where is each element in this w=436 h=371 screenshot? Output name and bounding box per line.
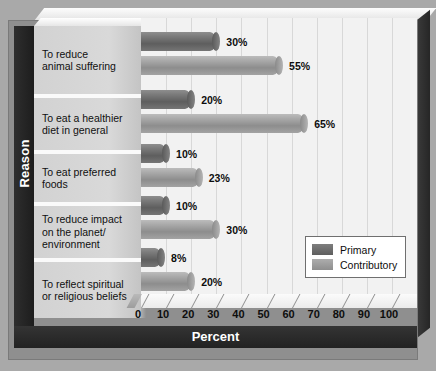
category-row: To eat a healthierdiet in general [34,98,141,150]
legend-label: Primary [340,244,376,256]
x-axis-tick [267,294,275,308]
x-axis-tick-label: 30 [207,308,219,320]
category-panel-bevel [34,18,148,26]
bar-end-cap [212,220,220,239]
legend-item[interactable]: Contributory [312,257,397,272]
category-row: To reduceanimal suffering [34,26,141,94]
x-axis-tick [342,294,350,308]
bar-end-cap [195,168,203,187]
x-axis-tick [292,294,300,308]
bar-value-label: 65% [314,118,335,130]
bar-value-label: 30% [226,36,247,48]
bar-primary [141,144,166,163]
chart-legend: PrimaryContributory [305,236,406,278]
legend-item[interactable]: Primary [312,242,397,257]
x-axis-band: Percent [14,326,417,348]
bar-contributory [141,114,304,133]
category-label: To reduce impacton the planet/environmen… [34,213,126,251]
bar-value-label: 20% [201,276,222,288]
bar-end-cap [187,272,195,291]
category-label: To eat preferredfoods [34,166,120,191]
category-label: To reduceanimal suffering [34,48,120,73]
x-axis-tick-label: 80 [333,308,345,320]
x-axis-base [141,294,417,308]
x-axis-tick-label: 100 [380,308,398,320]
x-axis-tick-label: 0 [135,308,141,320]
plot-area: 30%20%10%10%8%55%65%23%30%20%PrimaryCont… [141,18,417,294]
x-axis-tick-labels: 0102030405060708090100 [0,308,436,324]
bar-value-label: 23% [209,172,230,184]
x-axis-tick-label: 60 [282,308,294,320]
bar-contributory [141,168,199,187]
x-axis-tick [367,294,375,308]
x-axis-tick-label: 20 [182,308,194,320]
bar-value-label: 30% [226,224,247,236]
bar-value-label: 20% [201,94,222,106]
x-axis-title: Percent [14,326,417,348]
chart-figure: Reason To reduceanimal sufferingTo eat a… [0,0,436,371]
bar-end-cap [275,56,283,75]
x-axis-tick [141,294,149,308]
bar-value-label: 10% [176,148,197,160]
frame-right-bevel [417,10,430,338]
category-row: To eat preferredfoods [34,154,141,202]
category-label: To reflect spiritualor religious beliefs [34,278,131,303]
x-axis-tick [317,294,325,308]
x-axis-tick [166,294,174,308]
category-label: To eat a healthierdiet in general [34,112,127,137]
bar-value-label: 55% [289,60,310,72]
category-row: To reduce impacton the planet/environmen… [34,206,141,258]
bar-primary [141,248,161,267]
bar-end-cap [187,90,195,109]
bar-contributory [141,272,191,291]
legend-swatch [312,244,333,255]
x-axis-tick-label: 40 [232,308,244,320]
x-axis-tick [191,294,199,308]
x-axis-tick-label: 90 [358,308,370,320]
category-panel: To reduceanimal sufferingTo eat a health… [34,26,141,294]
x-axis-tick [241,294,249,308]
x-axis-tick-label: 10 [157,308,169,320]
bar-end-cap [300,114,308,133]
bar-primary [141,90,191,109]
x-axis-tick [392,294,400,308]
bar-primary [141,196,166,215]
bar-end-cap [162,196,170,215]
bar-value-label: 10% [176,200,197,212]
y-axis-title: Reason [17,62,32,266]
x-axis-tick [216,294,224,308]
x-axis-tick-label: 70 [308,308,320,320]
bar-value-label: 8% [171,252,186,264]
x-axis-tick-label: 50 [257,308,269,320]
legend-swatch [312,259,333,270]
legend-label: Contributory [340,259,397,271]
bar-end-cap [157,248,165,267]
bar-contributory [141,220,216,239]
bar-end-cap [162,144,170,163]
bar-contributory [141,56,279,75]
y-axis-band: Reason [14,26,34,326]
bar-end-cap [212,32,220,51]
bar-primary [141,32,216,51]
